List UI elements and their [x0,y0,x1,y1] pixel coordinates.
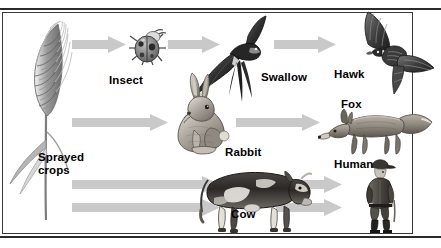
label-swallow: Swallow [261,71,307,84]
arrow-head [108,36,126,53]
arrow-head [150,114,168,131]
label-sprayed-crops: Sprayed crops [38,151,84,177]
arrow-head [324,199,342,216]
arrow-swallow-to-hawk [274,36,336,53]
arrow-shaft [236,118,302,127]
label-rabbit: Rabbit [225,146,261,159]
arrow-shaft [72,118,150,127]
arrow-shaft [72,180,202,189]
arrow-shaft [274,40,318,49]
cow-icon [196,162,312,234]
hawk-bird-icon [338,10,438,96]
arrow-crops-to-insect [72,36,126,53]
wheat-stalk-icon [6,20,78,232]
fox-icon [318,98,434,156]
label-insect: Insect [109,74,143,87]
figure-canvas: Sprayed crops Insect Swallow Hawk Rabbit… [0,0,441,248]
arrow-head [324,176,342,193]
label-fox: Fox [341,98,362,111]
arrow-shaft [72,203,202,212]
arrow-crops-to-rabbit [72,114,168,131]
arrow-rabbit-to-fox [236,114,320,131]
arrow-head [318,36,336,53]
ladybug-icon [128,28,168,66]
label-hawk: Hawk [334,68,364,81]
label-human: Human [334,158,373,171]
bottom-divider-rule [0,236,441,238]
label-cow: Cow [231,208,256,221]
